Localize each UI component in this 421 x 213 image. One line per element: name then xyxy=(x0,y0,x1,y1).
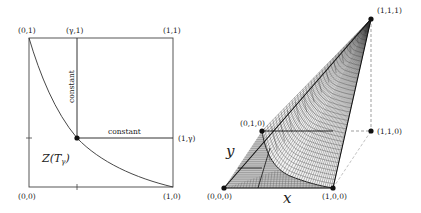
horizontal-constant-label: constant xyxy=(108,127,141,136)
vertex-1-0-0 xyxy=(330,185,335,190)
label-1-1: (1,1) xyxy=(163,26,181,35)
label-1-gamma: (1,γ) xyxy=(178,134,196,143)
right-panel: (1,1,1) (0,1,0) (1,1,0) (0,0,0) (1,0,0) … xyxy=(207,6,402,207)
label-0-0-0: (0,0,0) xyxy=(207,192,232,201)
label-1-1-0: (1,1,0) xyxy=(377,127,402,136)
vertex-1-1-1 xyxy=(368,16,373,21)
diagram-canvas: (0,1) (γ,1) (1,1) (1,γ) (0,0) (1,0) cons… xyxy=(0,0,421,213)
axis-label-y: y xyxy=(225,142,235,160)
vertex-0-0-0 xyxy=(221,185,226,190)
label-1-0: (1,0) xyxy=(163,192,181,201)
intersection-point xyxy=(74,135,79,140)
axis-label-x: x xyxy=(283,189,292,207)
label-1-1-1: (1,1,1) xyxy=(377,6,402,15)
vertical-constant-label: constant xyxy=(67,70,76,103)
label-1-0-0: (1,0,0) xyxy=(322,192,347,201)
region-label: Z(Tγ) xyxy=(41,152,70,166)
left-panel: (0,1) (γ,1) (1,1) (1,γ) (0,0) (1,0) cons… xyxy=(18,26,196,201)
label-0-1: (0,1) xyxy=(18,26,36,35)
label-gamma-1: (γ,1) xyxy=(66,26,84,35)
vertex-1-1-0 xyxy=(368,128,373,133)
label-0-1-0: (0,1,0) xyxy=(240,119,265,128)
vertex-0-1-0 xyxy=(259,128,264,133)
label-0-0: (0,0) xyxy=(18,192,36,201)
